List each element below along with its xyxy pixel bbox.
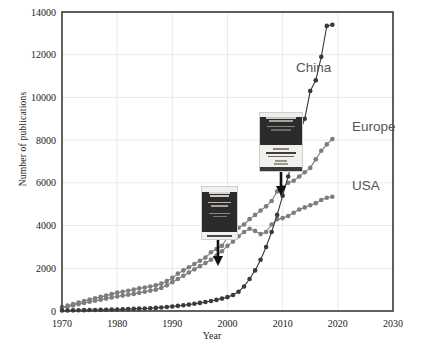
- data-point: [308, 89, 313, 94]
- x-axis-tick-labels: 1970198019902000201020202030: [52, 318, 403, 329]
- y-axis-tick-labels: 02000400060008000100001200014000: [31, 7, 56, 317]
- data-point: [159, 286, 164, 291]
- data-point: [253, 229, 258, 234]
- data-point: [258, 232, 263, 237]
- data-point: [198, 264, 203, 269]
- data-point: [187, 302, 192, 307]
- x-tick-2000: 2000: [218, 318, 238, 329]
- data-point: [214, 298, 219, 303]
- data-point: [198, 301, 203, 306]
- data-point: [258, 208, 263, 213]
- data-point: [198, 259, 203, 264]
- y-tick-0: 0: [51, 306, 56, 317]
- data-point: [286, 214, 291, 219]
- y-tick-10000: 10000: [31, 92, 56, 103]
- data-point: [319, 149, 324, 154]
- data-point: [319, 55, 324, 60]
- x-tick-2010: 2010: [273, 318, 293, 329]
- data-point: [187, 270, 192, 275]
- data-point: [253, 268, 258, 273]
- data-point: [313, 78, 318, 83]
- data-point: [220, 249, 225, 254]
- data-point: [330, 23, 335, 28]
- data-point: [142, 289, 147, 294]
- data-point: [225, 244, 230, 249]
- data-point: [187, 265, 192, 270]
- data-point: [330, 194, 335, 199]
- data-point: [165, 305, 170, 310]
- data-point: [325, 196, 330, 201]
- data-point: [325, 142, 330, 147]
- data-point: [220, 296, 225, 301]
- book-cover-1997: [201, 186, 238, 240]
- data-point: [142, 306, 147, 311]
- data-point: [126, 292, 131, 297]
- series-label-china: China: [296, 60, 332, 75]
- data-point: [247, 217, 252, 222]
- data-point: [209, 257, 214, 262]
- x-tick-2030: 2030: [383, 318, 403, 329]
- data-point: [209, 250, 214, 255]
- data-point: [192, 267, 197, 272]
- data-point: [181, 303, 186, 308]
- y-tick-6000: 6000: [36, 177, 56, 188]
- data-point: [308, 203, 313, 208]
- x-tick-1990: 1990: [162, 318, 182, 329]
- y-tick-2000: 2000: [36, 263, 56, 274]
- publications-line-chart: 1970198019902000201020202030 02000400060…: [0, 0, 424, 349]
- data-point: [291, 178, 296, 183]
- book-cover-2009: [259, 112, 303, 172]
- data-point: [236, 289, 241, 294]
- data-point: [313, 201, 318, 206]
- data-point: [126, 288, 131, 293]
- data-point: [258, 257, 263, 262]
- y-tick-4000: 4000: [36, 220, 56, 231]
- data-point: [297, 174, 302, 179]
- data-point: [137, 291, 142, 296]
- data-point: [264, 204, 269, 209]
- data-point: [115, 294, 120, 299]
- data-point: [225, 295, 230, 300]
- series-label-usa: USA: [352, 178, 380, 193]
- data-point: [203, 300, 208, 305]
- data-point: [153, 287, 158, 292]
- data-point: [242, 284, 247, 289]
- data-point: [242, 230, 247, 235]
- data-point: [247, 226, 252, 231]
- y-axis-title: Number of publications: [18, 69, 28, 209]
- x-tick-1970: 1970: [52, 318, 72, 329]
- gridlines: [62, 12, 393, 311]
- data-point: [159, 281, 164, 286]
- data-point: [98, 297, 103, 302]
- data-point: [181, 268, 186, 273]
- y-tick-8000: 8000: [36, 135, 56, 146]
- data-point: [87, 300, 92, 305]
- data-point: [109, 295, 114, 300]
- data-point: [297, 207, 302, 212]
- data-point: [176, 277, 181, 282]
- data-point: [137, 286, 142, 291]
- data-point: [142, 285, 147, 290]
- data-point: [269, 230, 274, 235]
- data-point: [170, 280, 175, 285]
- data-point: [247, 277, 252, 282]
- x-tick-1980: 1980: [107, 318, 127, 329]
- data-point: [203, 255, 208, 260]
- data-point: [325, 24, 330, 29]
- data-point: [203, 261, 208, 266]
- data-point: [104, 296, 109, 301]
- data-point: [181, 273, 186, 278]
- data-point: [148, 288, 153, 293]
- data-point: [302, 170, 307, 175]
- x-tick-2020: 2020: [328, 318, 348, 329]
- data-point: [148, 306, 153, 311]
- chart-svg: 1970198019902000201020202030 02000400060…: [0, 0, 424, 349]
- series-inline-labels: China Europe USA: [296, 60, 396, 193]
- y-tick-12000: 12000: [31, 49, 56, 60]
- data-point: [302, 116, 307, 121]
- data-point: [209, 299, 214, 304]
- data-point: [170, 304, 175, 309]
- data-point: [308, 166, 313, 171]
- data-point: [192, 301, 197, 306]
- data-point: [159, 305, 164, 310]
